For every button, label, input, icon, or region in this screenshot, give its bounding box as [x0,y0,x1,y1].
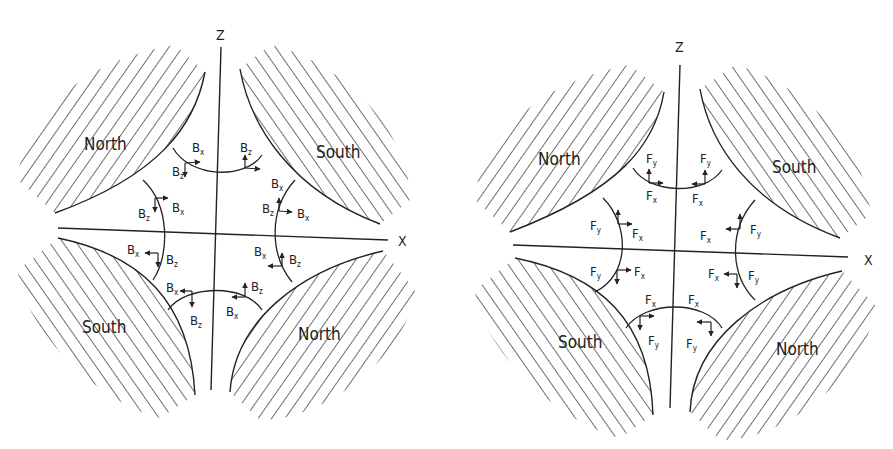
force-vectors-right: Fx Fy Fx Fy [700,214,762,288]
svg-text:Fx: Fx [634,264,646,281]
pole-bottom-right: North [230,251,415,420]
svg-text:Fx: Fx [632,226,644,243]
svg-text:Fy: Fy [646,151,658,168]
pole-bottom-right: North [690,271,875,440]
pole-label-south: South [316,142,360,162]
svg-text:Fy: Fy [648,333,660,350]
field-vectors-left: Bx Bz Bx Bz [127,198,185,269]
force-vectors-left: Fy Fx Fy Fx [590,210,646,284]
force-vectors-bottom: Fx Fy Fx Fy [640,292,711,353]
quadrupole-diagrams: North South South North Z X [0,0,893,449]
field-vectors-top: Bx Bz Bz [172,140,260,181]
svg-text:Bx: Bx [271,176,284,193]
svg-text:Fy: Fy [686,336,698,353]
pole-label-south: South [82,317,126,337]
svg-text:Bz: Bz [289,252,301,269]
svg-text:Bx: Bx [172,200,185,217]
svg-text:Fx: Fx [692,191,704,208]
field-arc-left [143,180,165,280]
svg-text:Bz: Bz [166,252,178,269]
svg-text:Fy: Fy [700,151,712,168]
pole-label-north: North [776,339,819,359]
svg-text:Bz: Bz [172,164,184,181]
z-axis-label: Z [216,27,225,43]
x-axis [513,245,848,257]
svg-text:Bz: Bz [138,206,150,223]
svg-text:Bx: Bx [192,140,205,157]
pole-top-left: North [18,45,205,213]
svg-text:Fx: Fx [645,292,657,309]
svg-text:Bx: Bx [254,244,267,261]
svg-text:Fy: Fy [590,264,602,281]
z-axis [211,47,221,390]
svg-text:Fx: Fx [688,292,700,309]
svg-text:Bx: Bx [226,304,239,321]
svg-text:Fy: Fy [590,218,602,235]
z-axis [670,65,680,408]
x-axis-label: X [864,252,873,268]
pole-bottom-left: South [475,258,653,438]
field-arc-bottom [168,290,262,310]
pole-label-north: North [538,149,581,169]
pole-top-left: North [475,65,664,232]
svg-text:Bz: Bz [251,279,263,296]
svg-text:Bx: Bx [297,206,310,223]
z-axis-label: Z [675,39,684,55]
svg-text:Fy: Fy [750,222,762,239]
svg-text:Bx: Bx [127,242,140,259]
force-vectors-top: Fy Fx Fy Fx [646,151,712,208]
field-vectors-right: Bx Bz Bx Bx Bz [254,176,310,269]
pole-label-north: North [84,134,127,154]
pole-top-right: South [700,65,870,238]
svg-text:Bx: Bx [166,280,179,297]
svg-text:Bz: Bz [240,140,252,157]
svg-text:Fx: Fx [646,188,658,205]
force-arc-right [735,200,755,300]
pole-label-south: South [772,157,816,177]
svg-text:Fx: Fx [708,266,720,283]
force-diagram: North South South North Z X Fy Fx [475,39,875,440]
svg-text:Fy: Fy [748,268,760,285]
x-axis [58,228,388,240]
pole-label-north: North [298,324,341,344]
x-axis-label: X [398,233,407,249]
svg-text:Bz: Bz [190,313,202,330]
pole-label-south: South [558,332,602,352]
svg-text:Bz: Bz [262,201,274,218]
pole-top-right: South [240,45,410,224]
svg-text:Fx: Fx [700,228,712,245]
field-diagram: North South South North Z X [18,27,415,420]
